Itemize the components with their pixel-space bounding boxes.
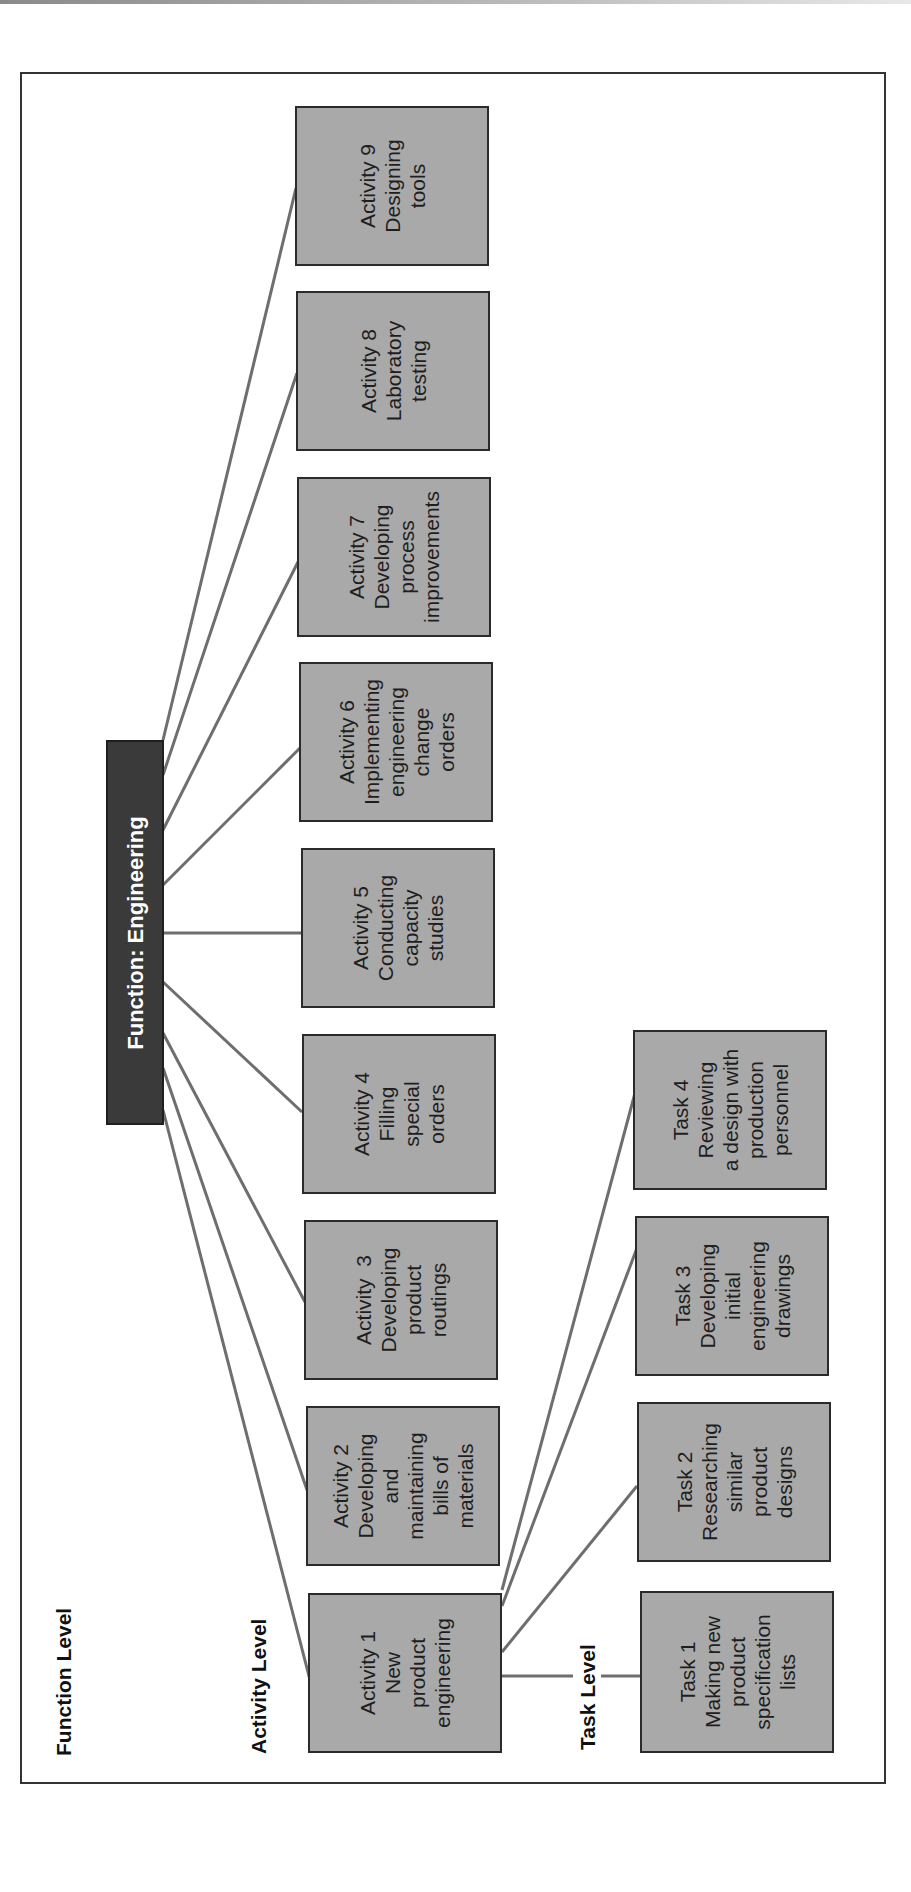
function-level-label: Function Level [52, 1608, 76, 1756]
function-box: Function: Engineering [106, 740, 164, 1125]
activity-text: and [378, 1432, 403, 1539]
activity-title: Activity 8 [356, 321, 381, 421]
connector-function-activity-6 [163, 748, 300, 885]
task-text: a design with [718, 1049, 743, 1172]
activity-9-box: Activity 9 Designing tools [295, 106, 489, 266]
activity-text: Filling [374, 1072, 399, 1156]
task-text: product [747, 1423, 772, 1541]
activity-text: Conducting [373, 875, 398, 981]
connector-function-activity-4 [163, 982, 302, 1112]
task-text: lists [775, 1614, 800, 1730]
activity-text: Developing [376, 1247, 401, 1352]
activity-2-box: Activity 2 Developing and maintaining bi… [306, 1406, 500, 1566]
activity-title: Activity 7 [344, 491, 369, 623]
activity-text: New [380, 1618, 405, 1728]
task-level-label: Task Level [576, 1644, 600, 1750]
task-text: personnel [768, 1049, 793, 1172]
activity-title: Activity 5 [348, 875, 373, 981]
connector-function-activity-7 [163, 560, 299, 830]
task-text: engineering [745, 1241, 770, 1351]
task-1-box: Task 1 Making new product specification … [640, 1591, 834, 1753]
task-text: Developing [695, 1241, 720, 1351]
task-text: Making new [700, 1614, 725, 1730]
task-text: specification [750, 1614, 775, 1730]
task-title: Task 2 [672, 1423, 697, 1541]
task-text: Researching [697, 1423, 722, 1541]
activity-text: Designing [380, 139, 405, 232]
activity-3-box: Activity 3 Developing product routings [304, 1220, 498, 1380]
activity-text: bills of [428, 1432, 453, 1539]
connector-activity1-task-4 [502, 1093, 635, 1590]
task-title: Task 3 [670, 1241, 695, 1351]
activity-text: materials [453, 1432, 478, 1539]
connector-function-activity-1 [163, 1110, 310, 1680]
activity-title: Activity 3 [351, 1247, 376, 1352]
task-3-box: Task 3 Developing initial engineering dr… [635, 1216, 829, 1376]
activity-title: Activity 1 [355, 1618, 380, 1728]
task-title: Task 4 [668, 1049, 693, 1172]
activity-text: engineering [384, 679, 409, 805]
activity-text: engineering [430, 1618, 455, 1728]
activity-5-box: Activity 5 Conducting capacity studies [301, 848, 495, 1008]
task-text: production [743, 1049, 768, 1172]
task-text: designs [772, 1423, 797, 1541]
activity-text: routings [426, 1247, 451, 1352]
activity-text: Implementing [359, 679, 384, 805]
activity-text: orders [434, 679, 459, 805]
activity-text: Developing [353, 1432, 378, 1539]
task-text: initial [720, 1241, 745, 1351]
activity-text: process [394, 491, 419, 623]
activity-title: Activity 6 [334, 679, 359, 805]
connector-function-activity-9 [163, 188, 296, 740]
activity-text: testing [406, 321, 431, 421]
connector-function-activity-3 [163, 1033, 305, 1302]
task-text: drawings [770, 1241, 795, 1351]
activity-text: change [409, 679, 434, 805]
task-text: Reviewing [693, 1049, 718, 1172]
activity-text: capacity [398, 875, 423, 981]
task-2-box: Task 2 Researching similar product desig… [637, 1402, 831, 1562]
task-text: product [725, 1614, 750, 1730]
activity-level-label: Activity Level [247, 1619, 271, 1754]
activity-text: orders [424, 1072, 449, 1156]
activity-8-box: Activity 8 Laboratory testing [296, 291, 490, 451]
task-title: Task 1 [675, 1614, 700, 1730]
activity-4-box: Activity 4 Filling special orders [302, 1034, 496, 1194]
activity-text: maintaining [403, 1432, 428, 1539]
activity-text: Laboratory [381, 321, 406, 421]
activity-title: Activity 9 [355, 139, 380, 232]
activity-text: special [399, 1072, 424, 1156]
activity-text: studies [423, 875, 448, 981]
activity-text: Developing [369, 491, 394, 623]
activity-title: Activity 4 [349, 1072, 374, 1156]
activity-text: product [401, 1247, 426, 1352]
connector-function-activity-8 [163, 373, 297, 775]
activity-1-box: Activity 1 New product engineering [308, 1593, 502, 1753]
activity-6-box: Activity 6 Implementing engineering chan… [299, 662, 493, 822]
activity-text: improvements [419, 491, 444, 623]
task-4-box: Task 4 Reviewing a design with productio… [633, 1030, 827, 1190]
activity-title: Activity 2 [328, 1432, 353, 1539]
function-label: Function: Engineering [123, 816, 148, 1049]
connector-activity1-task-3 [502, 1248, 637, 1606]
activity-7-box: Activity 7 Developing process improvemen… [297, 477, 491, 637]
task-text: similar [722, 1423, 747, 1541]
activity-text: product [405, 1618, 430, 1728]
connector-function-activity-2 [163, 1068, 307, 1490]
activity-text: tools [405, 139, 430, 232]
